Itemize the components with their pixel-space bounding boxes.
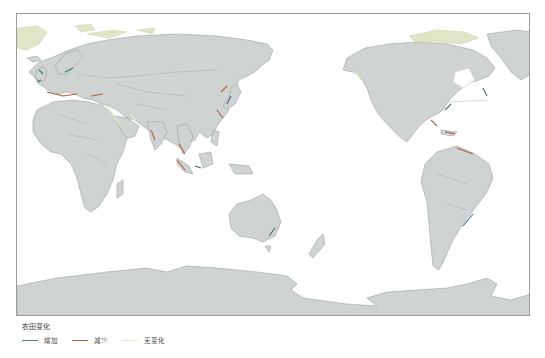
svalbard — [75, 24, 95, 32]
legend-title: 农田变化 — [22, 321, 165, 331]
australia — [229, 194, 281, 242]
india — [147, 122, 167, 150]
new-guinea — [229, 164, 253, 174]
legend-item-decrease: 减少 — [72, 335, 108, 345]
legend-label-no-change: 无变化 — [144, 335, 165, 345]
greenland — [487, 30, 530, 80]
north-america — [343, 42, 495, 142]
novaya-zemlya — [87, 30, 127, 38]
madagascar — [117, 180, 123, 198]
africa — [33, 100, 127, 212]
increase-line-icon — [22, 340, 38, 341]
map-canvas — [17, 14, 530, 316]
legend-item-no-change: 无变化 — [122, 335, 165, 345]
greenland-west — [17, 26, 47, 50]
antarctica — [17, 266, 530, 316]
legend-label-increase: 增加 — [44, 335, 58, 345]
legend-item-increase: 增加 — [22, 335, 58, 345]
sumatra — [177, 158, 193, 174]
borneo — [199, 152, 213, 168]
severnaya — [137, 28, 155, 34]
tasmania — [265, 246, 271, 252]
legend-label-decrease: 减少 — [94, 335, 108, 345]
world-map — [16, 13, 530, 316]
no-change-line-icon — [122, 340, 138, 341]
legend: 农田变化 增加 减少 无变化 — [22, 321, 165, 345]
canadian-arctic — [409, 30, 479, 44]
iceland — [27, 56, 41, 62]
new-zealand — [309, 234, 325, 258]
south-america — [421, 146, 493, 270]
decrease-line-icon — [72, 340, 88, 341]
legend-items: 增加 减少 无变化 — [22, 335, 165, 345]
